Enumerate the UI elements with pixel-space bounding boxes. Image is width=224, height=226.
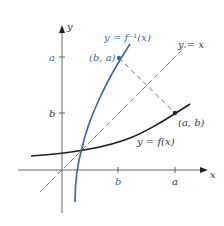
inverse-curve-label: y = f⁻¹(x) <box>103 32 151 43</box>
y-tick-label-b: b <box>49 108 55 119</box>
function-curve-label: y = f(x) <box>136 136 175 147</box>
point-b-a <box>117 56 121 60</box>
point-a-b <box>173 111 177 115</box>
point-a-b-label: (a, b) <box>178 117 205 128</box>
y-tick-label-a: a <box>49 52 55 63</box>
inverse-function-diagram: y x a b b a y = f⁻¹(x) y = x y = f(x) (b… <box>0 0 224 226</box>
point-b-a-label: (b, a) <box>89 52 116 63</box>
x-axis-label: x <box>210 169 216 180</box>
x-tick-label-a: a <box>172 176 178 187</box>
y-axis-label: y <box>66 21 73 32</box>
x-axis-arrow-icon <box>200 167 208 173</box>
x-tick-label-b: b <box>115 176 121 187</box>
identity-line-label: y = x <box>177 39 204 50</box>
y-axis-arrow-icon <box>59 25 65 33</box>
inverse-curve <box>75 44 130 202</box>
